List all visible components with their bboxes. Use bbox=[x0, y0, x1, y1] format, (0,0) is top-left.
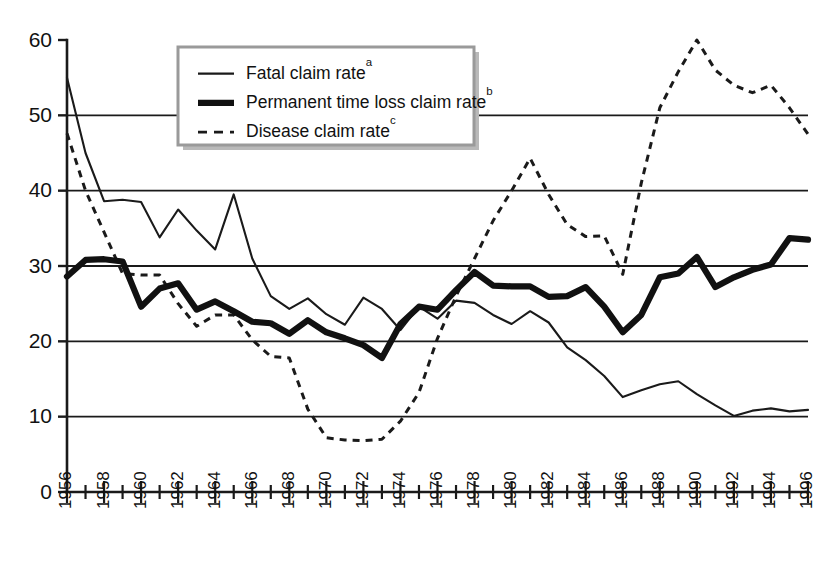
x-tick-label-1972: 1972 bbox=[353, 471, 372, 509]
line-chart: 0102030405060 19561958196019621964196619… bbox=[0, 0, 831, 573]
x-tick-label-1992: 1992 bbox=[723, 471, 742, 509]
y-tick-label-50: 50 bbox=[29, 103, 52, 126]
x-tick-label-1970: 1970 bbox=[316, 471, 335, 509]
x-tick-labels: 1956195819601962196419661968197019721974… bbox=[56, 471, 816, 509]
x-tick-label-1956: 1956 bbox=[56, 471, 75, 509]
x-tick-label-1962: 1962 bbox=[168, 471, 187, 509]
y-tick-labels: 0102030405060 bbox=[29, 28, 52, 503]
y-tick-label-20: 20 bbox=[29, 329, 52, 352]
x-tick-label-1976: 1976 bbox=[427, 471, 446, 509]
x-tick-label-1994: 1994 bbox=[760, 471, 779, 509]
y-tick-label-60: 60 bbox=[29, 28, 52, 51]
y-tick-label-30: 30 bbox=[29, 254, 52, 277]
x-tick-label-1990: 1990 bbox=[686, 471, 705, 509]
x-tick-label-1980: 1980 bbox=[501, 471, 520, 509]
x-tick-label-1996: 1996 bbox=[797, 471, 816, 509]
x-tick-label-1984: 1984 bbox=[575, 471, 594, 509]
x-tick-label-1960: 1960 bbox=[131, 471, 150, 509]
x-tick-label-1982: 1982 bbox=[538, 471, 557, 509]
y-tick-label-10: 10 bbox=[29, 404, 52, 427]
x-tick-label-1974: 1974 bbox=[390, 471, 409, 509]
x-tick-label-1978: 1978 bbox=[464, 471, 483, 509]
x-tick-label-1958: 1958 bbox=[94, 471, 113, 509]
y-tick-label-40: 40 bbox=[29, 178, 52, 201]
x-tick-label-1964: 1964 bbox=[205, 471, 224, 509]
y-tick-label-0: 0 bbox=[40, 480, 52, 503]
x-tick-label-1968: 1968 bbox=[279, 471, 298, 509]
x-tick-label-1966: 1966 bbox=[242, 471, 261, 509]
x-tick-label-1988: 1988 bbox=[649, 471, 668, 509]
legend: Fatal claim rateaPermanent time loss cla… bbox=[178, 47, 493, 150]
y-axis bbox=[58, 40, 67, 492]
x-tick-label-1986: 1986 bbox=[612, 471, 631, 509]
chart-container: 0102030405060 19561958196019621964196619… bbox=[0, 0, 831, 573]
gridlines-group bbox=[67, 115, 808, 416]
